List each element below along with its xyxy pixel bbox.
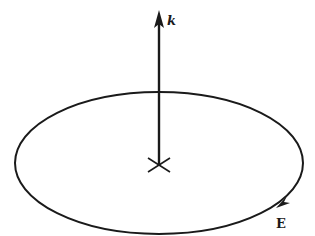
k-label: k [167,13,176,28]
e-label: E [276,216,286,231]
diagram-canvas: k E [0,0,315,236]
